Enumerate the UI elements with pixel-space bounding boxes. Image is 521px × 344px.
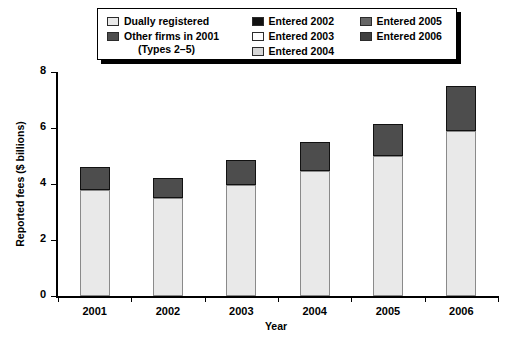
legend-swatch-icon <box>360 32 372 41</box>
legend-item[interactable]: Entered 2005 <box>360 14 456 28</box>
legend-item[interactable]: Other firms in 2001 <box>107 29 252 43</box>
y-tick-mark <box>51 128 58 129</box>
bar-group[interactable] <box>153 72 183 296</box>
legend-swatch-icon <box>252 32 264 41</box>
bar-segment[interactable] <box>226 160 256 185</box>
y-tick-mark <box>51 240 58 241</box>
bar-segment[interactable] <box>300 142 330 171</box>
y-tick-mark <box>51 72 58 73</box>
x-tick-mark <box>351 296 352 302</box>
x-tick-label: 2004 <box>285 305 345 317</box>
legend-swatch-icon <box>252 47 264 56</box>
legend-swatch-icon <box>252 17 264 26</box>
x-tick-mark <box>425 296 426 302</box>
bar-group[interactable] <box>446 72 476 296</box>
legend-item-label: Entered 2004 <box>269 46 334 57</box>
x-tick-mark <box>131 296 132 302</box>
x-tick-mark <box>205 296 206 302</box>
bar-segment[interactable] <box>80 190 110 296</box>
y-axis-title: Reported fees ($ billions) <box>14 121 26 246</box>
plot-area: 02468 200120022003200420052006 Reported … <box>56 72 498 298</box>
bar-group[interactable] <box>80 72 110 296</box>
x-tick-label: 2006 <box>431 305 491 317</box>
legend-item-label: Entered 2006 <box>377 31 442 42</box>
y-tick-mark <box>51 184 58 185</box>
bar-group[interactable] <box>300 72 330 296</box>
bar-segment[interactable] <box>373 124 403 156</box>
x-tick-label: 2001 <box>65 305 125 317</box>
bar-group[interactable] <box>373 72 403 296</box>
bar-segment[interactable] <box>446 86 476 131</box>
legend-item-label: Entered 2003 <box>269 31 334 42</box>
bar-segment[interactable] <box>446 131 476 296</box>
legend-swatch-icon <box>107 32 119 41</box>
legend-item-label: Other firms in 2001 <box>124 31 219 42</box>
legend-item[interactable]: Entered 2002 <box>252 14 360 28</box>
legend-item[interactable]: Dually registered <box>107 14 252 28</box>
y-tick-label: 8 <box>16 64 46 76</box>
x-tick-label: 2005 <box>358 305 418 317</box>
legend-item-sublabel: (Types 2–5) <box>138 44 252 55</box>
legend-swatch-icon <box>360 17 372 26</box>
chart-root: Dually registeredOther firms in 2001(Typ… <box>0 0 521 344</box>
bar-segment[interactable] <box>300 171 330 296</box>
x-tick-label: 2002 <box>138 305 198 317</box>
legend-item-label: Entered 2005 <box>377 16 442 27</box>
bar-segment[interactable] <box>226 185 256 296</box>
bar-segment[interactable] <box>80 167 110 189</box>
legend-swatch-icon <box>107 17 119 26</box>
x-tick-label: 2003 <box>211 305 271 317</box>
legend-column: Dually registeredOther firms in 2001(Typ… <box>107 14 252 59</box>
bar-segment[interactable] <box>153 178 183 198</box>
x-axis-title: Year <box>56 320 496 332</box>
x-tick-mark <box>58 296 59 302</box>
x-tick-mark <box>278 296 279 302</box>
bar-segment[interactable] <box>153 198 183 296</box>
chart-legend: Dually registeredOther firms in 2001(Typ… <box>97 8 457 60</box>
legend-item-label: Dually registered <box>124 16 209 27</box>
x-tick-mark <box>498 296 499 302</box>
legend-item-label: Entered 2002 <box>269 16 334 27</box>
y-tick-mark <box>51 296 58 297</box>
legend-column: Entered 2005Entered 2006 <box>360 14 456 59</box>
legend-columns: Dually registeredOther firms in 2001(Typ… <box>98 9 456 59</box>
bar-segment[interactable] <box>373 156 403 296</box>
bar-group[interactable] <box>226 72 256 296</box>
bars-layer <box>58 72 498 296</box>
legend-item[interactable]: Entered 2006 <box>360 29 456 43</box>
y-tick-label: 0 <box>16 288 46 300</box>
legend-column: Entered 2002Entered 2003Entered 2004 <box>252 14 360 59</box>
legend-item[interactable]: Entered 2004 <box>252 44 360 58</box>
legend-item[interactable]: Entered 2003 <box>252 29 360 43</box>
